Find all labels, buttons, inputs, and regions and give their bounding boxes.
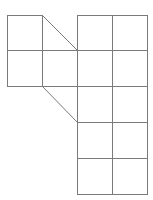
- square: [113, 87, 148, 123]
- square: [113, 16, 148, 51]
- square: [113, 123, 148, 159]
- square: [43, 51, 78, 87]
- square: [113, 51, 148, 87]
- square: [8, 16, 43, 51]
- square: [78, 16, 113, 51]
- square: [78, 123, 113, 159]
- lower-diagonal: [43, 87, 78, 123]
- square: [8, 51, 43, 87]
- square: [78, 87, 113, 123]
- square: [113, 159, 148, 195]
- square: [78, 159, 113, 195]
- square: [78, 51, 113, 87]
- net-diagram: [0, 0, 153, 200]
- upper-diagonal: [43, 16, 78, 51]
- right-block: [78, 16, 148, 195]
- left-block: [8, 16, 78, 87]
- diagonal-edges: [43, 16, 78, 123]
